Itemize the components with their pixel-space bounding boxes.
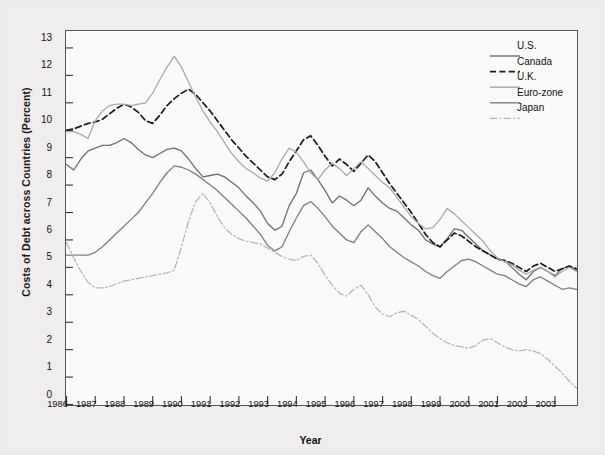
y-tick-label: 4 bbox=[26, 279, 52, 290]
y-tick-label: 6 bbox=[26, 224, 52, 235]
y-tick-label: 10 bbox=[26, 114, 52, 125]
legend-label-euro-zone: Euro-zone bbox=[517, 87, 563, 98]
y-tick-label: 12 bbox=[26, 59, 52, 70]
y-tick-label: 3 bbox=[26, 306, 52, 317]
series-line-japan bbox=[67, 193, 577, 388]
y-tick-label: 0 bbox=[26, 389, 52, 400]
series-lines bbox=[67, 56, 577, 388]
series-line-u-k bbox=[67, 56, 577, 277]
figure-panel: Costs of Debt across Countries (Percent)… bbox=[8, 8, 597, 447]
plot-area bbox=[65, 30, 578, 406]
plot-svg bbox=[66, 31, 577, 405]
legend-label-u-k: U.K. bbox=[517, 71, 536, 82]
y-tick-marks bbox=[66, 48, 73, 405]
y-tick-label: 1 bbox=[26, 361, 52, 372]
legend-label-u-s: U.S. bbox=[517, 40, 536, 51]
y-tick-label: 13 bbox=[26, 32, 52, 43]
legend-swatches bbox=[490, 56, 520, 118]
y-tick-label: 2 bbox=[26, 334, 52, 345]
x-axis-title: Year bbox=[8, 434, 605, 446]
y-tick-label: 9 bbox=[26, 142, 52, 153]
y-tick-label: 11 bbox=[26, 87, 52, 98]
legend-label-canada: Canada bbox=[517, 56, 552, 67]
x-tick-label: 2003 bbox=[524, 399, 568, 409]
legend-label-japan: Japan bbox=[517, 102, 544, 113]
series-line-canada bbox=[67, 89, 577, 271]
y-tick-label: 5 bbox=[26, 251, 52, 262]
y-tick-label: 7 bbox=[26, 197, 52, 208]
y-tick-label: 8 bbox=[26, 169, 52, 180]
figure-canvas: Costs of Debt across Countries (Percent)… bbox=[0, 0, 605, 455]
